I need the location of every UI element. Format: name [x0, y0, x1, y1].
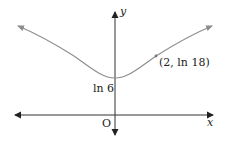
function-curve: [115, 26, 212, 78]
x-axis-label: x: [207, 117, 213, 128]
y-axis-label: y: [120, 6, 126, 17]
y-intercept-label: ln 6: [93, 83, 114, 94]
graph-canvas: [0, 0, 229, 144]
function-curve-left: [18, 26, 115, 78]
point-label: (2, ln 18): [159, 57, 210, 68]
origin-label: O: [102, 118, 111, 129]
point-marker: [155, 55, 158, 58]
